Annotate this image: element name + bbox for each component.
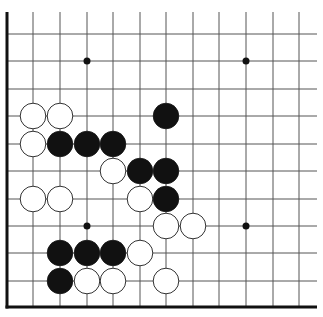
go-board[interactable] (0, 0, 323, 317)
white-stone[interactable] (20, 103, 46, 129)
black-stone[interactable] (74, 131, 100, 157)
star-point-icon (84, 223, 91, 230)
black-stone[interactable] (47, 268, 73, 294)
black-stone[interactable] (47, 240, 73, 266)
star-point-icon (84, 58, 91, 65)
white-stone[interactable] (100, 158, 126, 184)
white-stone[interactable] (47, 186, 73, 212)
white-stone[interactable] (127, 240, 153, 266)
star-point-icon (243, 223, 250, 230)
white-stone[interactable] (127, 186, 153, 212)
star-point-icon (243, 58, 250, 65)
black-stone[interactable] (100, 240, 126, 266)
black-stone[interactable] (153, 186, 179, 212)
black-stone[interactable] (74, 240, 100, 266)
white-stone[interactable] (74, 268, 100, 294)
black-stone[interactable] (127, 158, 153, 184)
white-stone[interactable] (153, 268, 179, 294)
black-stone[interactable] (47, 131, 73, 157)
black-stone[interactable] (100, 131, 126, 157)
white-stone[interactable] (20, 186, 46, 212)
white-stone[interactable] (100, 268, 126, 294)
white-stone[interactable] (153, 213, 179, 239)
black-stone[interactable] (153, 103, 179, 129)
white-stone[interactable] (47, 103, 73, 129)
black-stone[interactable] (153, 158, 179, 184)
white-stone[interactable] (20, 131, 46, 157)
white-stone[interactable] (180, 213, 206, 239)
